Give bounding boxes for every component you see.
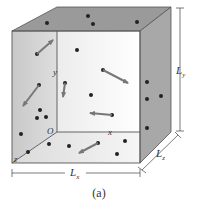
y-axis-label: y (52, 67, 57, 77)
length-y-label: Ly (175, 64, 186, 79)
right-face (140, 7, 171, 163)
back-face (57, 31, 140, 132)
x-axis-label: x (107, 127, 112, 137)
figure-caption: (a) (0, 186, 198, 201)
length-x-label: Lx (69, 166, 80, 181)
origin-label: O (47, 126, 54, 136)
gas-box-figure: y x z O (0, 0, 198, 207)
